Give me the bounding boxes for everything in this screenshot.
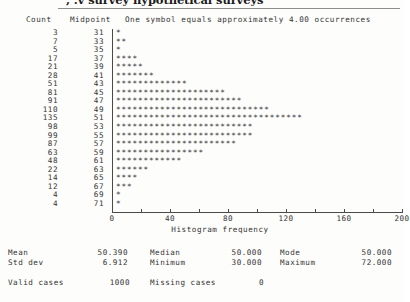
x-axis-tick: [344, 209, 345, 213]
x-axis-title: Histogram frequency: [0, 225, 404, 234]
column-header-count: Count: [26, 15, 52, 24]
histogram-row: 4861************: [0, 157, 404, 166]
histogram-row: 2263******: [0, 166, 404, 175]
missing-cases-value: 0: [244, 278, 264, 287]
missing-cases-label: Missing cases: [150, 278, 216, 287]
x-axis-tick: [286, 209, 287, 213]
histogram-row: 2841*******: [0, 72, 404, 81]
x-axis-title-text: Histogram frequency: [171, 225, 268, 234]
x-axis-tick-label: 40: [165, 214, 175, 223]
page-title: , .v survey hypothetical surveys: [66, 0, 263, 7]
row-count: 4: [26, 200, 58, 209]
valid-cases-label: Valid cases: [8, 278, 64, 287]
statistics-table: Mean50.390Median50.000Mode50.000Std dev6…: [0, 248, 404, 267]
histogram-row: 331*: [0, 29, 404, 38]
x-axis-tick: [228, 209, 229, 213]
stat-label: Median: [150, 248, 180, 257]
x-axis-tick: [257, 209, 258, 213]
stat-value: 6.912: [84, 258, 128, 267]
stat-value: 50.000: [218, 248, 262, 257]
row-midpoint: 71: [72, 200, 104, 209]
stat-label: Std dev: [8, 258, 44, 267]
stat-label: Mean: [8, 248, 28, 257]
stat-label: Maximum: [280, 258, 316, 267]
histogram-row: 1267***: [0, 183, 404, 192]
x-axis-tick: [170, 209, 171, 213]
x-axis-tick-label: 120: [278, 214, 293, 223]
statistics-row: Std dev6.912Minimum30.000Maximum72.000: [0, 258, 404, 268]
x-axis-tick: [315, 209, 316, 213]
x-axis-tick-label: 0: [109, 214, 114, 223]
x-axis-tick: [112, 209, 113, 213]
stat-label: Mode: [280, 248, 300, 257]
title-divider: [58, 8, 400, 9]
histogram-row: 471*: [0, 200, 404, 209]
x-axis-tick-label: 160: [336, 214, 351, 223]
x-axis-tick: [373, 209, 374, 213]
column-header-midpoint: Midpoint: [70, 15, 111, 24]
x-axis-tick-label: 200: [394, 214, 409, 223]
x-axis-tick: [199, 209, 200, 213]
x-axis-tick: [402, 209, 403, 213]
symbol-legend: One symbol equals approximately 4.00 occ…: [125, 15, 371, 24]
row-symbol-bar: *: [116, 200, 122, 209]
x-axis-tick: [141, 209, 142, 213]
x-axis-tick-label: 80: [223, 214, 233, 223]
statistics-row: Mean50.390Median50.000Mode50.000: [0, 248, 404, 258]
histogram-row: 535*: [0, 46, 404, 55]
histogram-row: 1737****: [0, 55, 404, 64]
valid-cases-value: 1000: [96, 278, 130, 287]
stat-value: 50.390: [84, 248, 128, 257]
histogram-row: 733**: [0, 38, 404, 47]
stat-value: 50.000: [348, 248, 392, 257]
histogram-rows: 331*733**535*1737****2139*****2841******…: [0, 29, 404, 208]
stat-value: 72.000: [348, 258, 392, 267]
histogram-row: 469*: [0, 191, 404, 200]
histogram-row: 6359****************: [0, 149, 404, 158]
histogram-row: 2139*****: [0, 63, 404, 72]
histogram-row: 1465****: [0, 174, 404, 183]
stat-label: Minimum: [150, 258, 186, 267]
stat-value: 30.000: [218, 258, 262, 267]
